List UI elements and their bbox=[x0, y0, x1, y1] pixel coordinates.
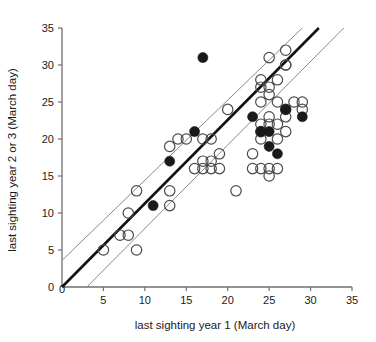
y-tick-label: 0 bbox=[48, 281, 54, 293]
data-point-open bbox=[131, 245, 141, 255]
data-point-filled bbox=[272, 149, 282, 159]
x-tick-label: 15 bbox=[180, 294, 192, 306]
data-point-open bbox=[165, 141, 175, 151]
data-point-filled bbox=[148, 201, 158, 211]
data-point-open bbox=[272, 134, 282, 144]
y-tick-label: 35 bbox=[42, 22, 54, 34]
data-point-open bbox=[264, 52, 274, 62]
x-axis-title: last sighting year 1 (March day) bbox=[135, 319, 296, 331]
x-tick-label: 25 bbox=[263, 294, 275, 306]
data-point-filled bbox=[264, 141, 274, 151]
data-point-filled bbox=[190, 127, 200, 137]
y-tick-label: 20 bbox=[42, 133, 54, 145]
data-point-open bbox=[131, 186, 141, 196]
data-point-open bbox=[123, 208, 133, 218]
data-point-open bbox=[281, 126, 291, 136]
y-tick-label: 10 bbox=[42, 207, 54, 219]
data-point-open bbox=[247, 149, 257, 159]
data-point-open bbox=[256, 97, 266, 107]
data-point-filled bbox=[198, 53, 208, 63]
data-point-open bbox=[223, 104, 233, 114]
data-point-open bbox=[165, 200, 175, 210]
data-point-open bbox=[281, 45, 291, 55]
data-point-filled bbox=[264, 127, 274, 137]
data-point-open bbox=[165, 186, 175, 196]
data-point-filled bbox=[297, 112, 307, 122]
x-tick-label: 10 bbox=[139, 294, 151, 306]
data-point-open bbox=[272, 75, 282, 85]
x-tick-label: 5 bbox=[100, 294, 106, 306]
y-tick-label: 25 bbox=[42, 96, 54, 108]
y-tick-label: 30 bbox=[42, 59, 54, 71]
scatter-plot-figure: 05101520253035 05101520253035 last sight… bbox=[0, 0, 376, 342]
data-point-filled bbox=[281, 104, 291, 114]
data-point-open bbox=[264, 171, 274, 181]
trend-lines-group bbox=[62, 28, 344, 287]
y-axis-title: last sighting year 2 or 3 (March day) bbox=[6, 68, 18, 252]
chart-canvas: 05101520253035 05101520253035 last sight… bbox=[0, 0, 376, 342]
filled-circle-series bbox=[148, 53, 307, 211]
y-tick-label: 15 bbox=[42, 170, 54, 182]
x-tick-label: 20 bbox=[222, 294, 234, 306]
x-tick-label: 30 bbox=[304, 294, 316, 306]
data-point-filled bbox=[248, 112, 258, 122]
data-point-open bbox=[272, 97, 282, 107]
data-point-open bbox=[256, 75, 266, 85]
y-axis-tick-labels: 05101520253035 bbox=[42, 22, 54, 293]
data-point-filled bbox=[165, 156, 175, 166]
x-tick-label: 35 bbox=[346, 294, 358, 306]
y-tick-label: 5 bbox=[48, 244, 54, 256]
data-point-open bbox=[231, 186, 241, 196]
